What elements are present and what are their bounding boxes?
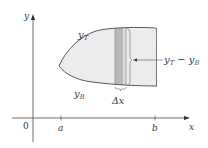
origin-label: 0 bbox=[23, 121, 29, 131]
strip-width-label: Δx bbox=[111, 95, 125, 106]
strip-height-label: yT − yB bbox=[163, 54, 199, 67]
x-axis-label: x bbox=[189, 122, 194, 132]
x-axis-arrowhead bbox=[184, 116, 190, 120]
tick-label-b: b bbox=[152, 123, 158, 133]
width-bracket bbox=[115, 87, 126, 91]
approximating-strip bbox=[115, 28, 123, 85]
bottom-curve-label: yB bbox=[73, 88, 85, 101]
y-axis-label: y bbox=[23, 11, 30, 21]
y-axis-arrowhead bbox=[31, 14, 35, 20]
area-between-curves-diagram: y x 0 a b yT yB Δx yT − yB bbox=[0, 0, 208, 148]
tick-label-a: a bbox=[58, 123, 63, 133]
